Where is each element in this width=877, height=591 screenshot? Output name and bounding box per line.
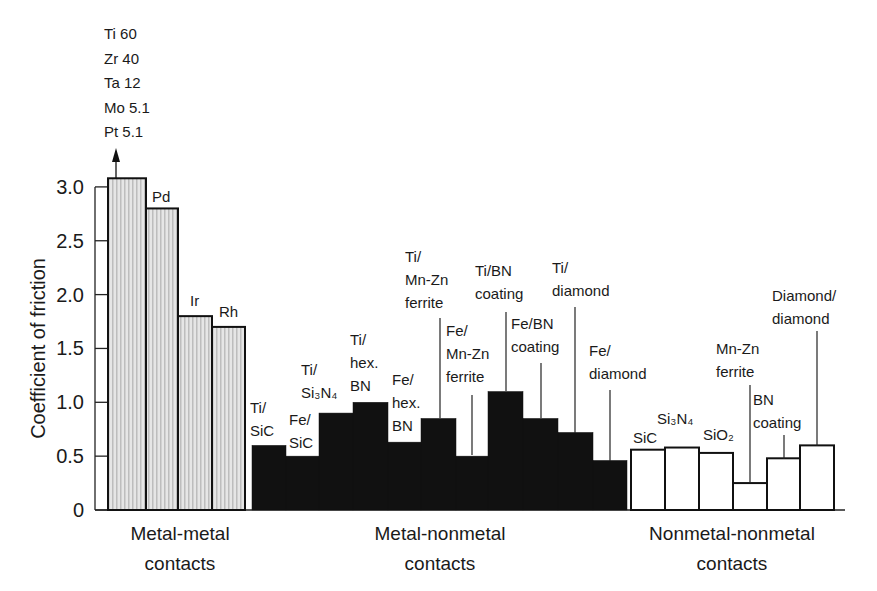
bar-label: coating [753, 414, 801, 431]
bar [593, 460, 627, 510]
bar [767, 458, 800, 510]
bar [456, 456, 488, 510]
bar-label: Ti/BN [475, 262, 512, 279]
group-label: Nonmetal-nonmetal [649, 523, 815, 544]
bar [699, 453, 733, 510]
bar [523, 418, 558, 510]
chart-canvas: 00.51.01.52.02.53.0Coefficient of fricti… [0, 0, 877, 591]
y-tick-label: 0.5 [56, 445, 84, 467]
bar [665, 448, 699, 510]
y-tick-label: 3.0 [56, 176, 84, 198]
y-tick-label: 1.5 [56, 337, 84, 359]
y-tick-label: 2.0 [56, 284, 84, 306]
bar-label: hex. [350, 354, 378, 371]
bar [388, 442, 421, 510]
bar-label: Ti/ [301, 361, 318, 378]
off-scale-label: Ti 60 [104, 25, 137, 42]
bar-label: Ti/ [405, 248, 422, 265]
group-label: Metal-metal [130, 523, 229, 544]
bar-label: SiC [289, 434, 313, 451]
bar-label: Ti/ [350, 331, 367, 348]
bar [733, 483, 767, 510]
bar [252, 445, 286, 510]
bar-label: SiC [250, 422, 274, 439]
bar-label: Diamond/ [772, 287, 837, 304]
bar [800, 445, 834, 510]
bar-label: BN [350, 377, 371, 394]
bar-label: Fe/ [392, 371, 415, 388]
y-tick-label: 2.5 [56, 230, 84, 252]
bar [319, 413, 353, 510]
bar-label: coating [511, 338, 559, 355]
bar-label: Mn-Zn [446, 345, 489, 362]
group-label: contacts [405, 553, 476, 574]
bar-label: Mn-Zn [716, 340, 759, 357]
bar-label: BN [753, 391, 774, 408]
bar-label: Fe/BN [511, 315, 554, 332]
bar-label: ferrite [446, 368, 484, 385]
bar [488, 392, 523, 510]
off-scale-label: Ta 12 [104, 74, 141, 91]
off-scale-label: Pt 5.1 [104, 123, 143, 140]
bar [353, 402, 388, 510]
bar-label: diamond [589, 365, 647, 382]
bar-label: diamond [772, 310, 830, 327]
bar-label: Ir [190, 292, 199, 309]
bar [631, 450, 665, 510]
bar-label: Ti/ [552, 259, 569, 276]
bar [178, 316, 212, 510]
bar-label: Fe/ [446, 322, 469, 339]
bar-label: diamond [552, 282, 610, 299]
bar-label: ferrite [405, 294, 443, 311]
bar-label: coating [475, 285, 523, 302]
group-label: Metal-nonmetal [375, 523, 506, 544]
bar-label: hex. [392, 394, 420, 411]
y-axis-title: Coefficient of friction [27, 258, 49, 439]
bar-label: BN [392, 417, 413, 434]
bar [108, 178, 146, 510]
bar [558, 432, 593, 510]
bar-label: SiO₂ [703, 426, 734, 443]
bar-label: Fe/ [289, 411, 312, 428]
bar-label: ferrite [716, 363, 754, 380]
group-label: contacts [697, 553, 768, 574]
bar-label: Fe/ [589, 342, 612, 359]
arrow-head-icon [112, 148, 120, 162]
group-label: contacts [145, 553, 216, 574]
bar-label: Ti/ [250, 399, 267, 416]
bar-label: Si₃N₄ [301, 384, 337, 401]
bar [146, 208, 178, 510]
bar-label: Mn-Zn [405, 271, 448, 288]
friction-coefficient-chart: 00.51.01.52.02.53.0Coefficient of fricti… [0, 0, 877, 591]
off-scale-label: Zr 40 [104, 50, 139, 67]
bar-label: Si₃N₄ [657, 410, 693, 427]
bar [286, 456, 319, 510]
bar-label: SiC [633, 429, 657, 446]
bar [212, 327, 245, 510]
bar-label: Rh [219, 303, 238, 320]
y-tick-label: 0 [73, 499, 84, 521]
off-scale-label: Mo 5.1 [104, 99, 150, 116]
bar-label: Pd [152, 188, 170, 205]
y-tick-label: 1.0 [56, 391, 84, 413]
bar [421, 418, 456, 510]
